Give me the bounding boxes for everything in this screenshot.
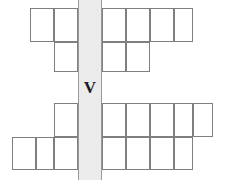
grid-cell[interactable]	[126, 42, 150, 72]
grid-cell[interactable]	[126, 103, 150, 137]
grid-cell[interactable]	[150, 137, 174, 170]
grid-cell[interactable]	[54, 103, 78, 137]
grid-cell[interactable]	[102, 137, 126, 170]
grid-cell[interactable]	[193, 103, 213, 137]
grid-cell[interactable]	[54, 137, 78, 170]
grid-cell[interactable]	[150, 8, 174, 42]
grid-cell[interactable]	[174, 8, 193, 42]
grid-cell[interactable]	[54, 42, 78, 72]
grid-cell[interactable]	[102, 103, 126, 137]
grid-cell[interactable]	[36, 137, 54, 170]
grid-cell[interactable]	[174, 103, 193, 137]
grid-cell[interactable]	[30, 8, 54, 42]
grid-cell[interactable]	[102, 8, 126, 42]
grid-cell[interactable]	[12, 137, 36, 170]
grid-cell[interactable]	[54, 8, 78, 42]
grid-cell[interactable]	[150, 103, 174, 137]
grid-cell[interactable]	[102, 42, 126, 72]
crossword-grid: V	[0, 0, 225, 180]
grid-cell[interactable]	[174, 137, 193, 170]
column-letter-v: V	[78, 72, 102, 103]
grid-cell[interactable]	[126, 137, 150, 170]
grid-cell[interactable]	[126, 8, 150, 42]
